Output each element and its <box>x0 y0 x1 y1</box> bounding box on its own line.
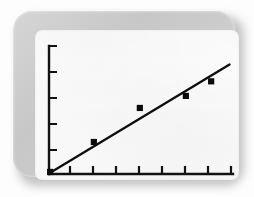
data-point <box>208 78 214 84</box>
data-point <box>47 169 53 175</box>
plot-canvas <box>35 30 239 180</box>
data-point <box>183 93 189 99</box>
data-point <box>137 105 143 111</box>
chart-frame-bezel <box>13 11 235 177</box>
scanned-figure-page <box>0 0 254 197</box>
trend-line <box>50 64 229 172</box>
y-axis-ticks <box>49 46 57 150</box>
data-point <box>91 139 97 145</box>
scatter-plot <box>35 30 239 180</box>
chart-screen <box>35 30 239 180</box>
